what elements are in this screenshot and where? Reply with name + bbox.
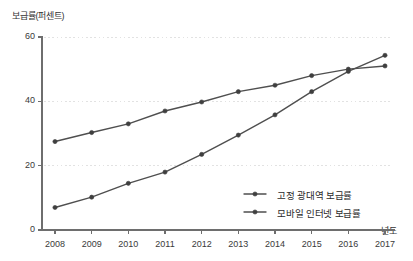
x-tick-label: 2009 (75, 239, 109, 249)
data-point (163, 170, 167, 174)
x-tick-label: 2012 (185, 239, 219, 249)
x-tick-label: 2014 (258, 239, 292, 249)
data-point (310, 90, 314, 94)
legend-item-label-1: 고정 광대역 보급률 (277, 188, 352, 202)
data-point (383, 53, 387, 57)
x-tick-label: 2017 (368, 239, 402, 249)
data-point (126, 181, 130, 185)
data-point (53, 205, 57, 209)
data-point (273, 83, 277, 87)
data-point (236, 90, 240, 94)
y-tick-label: 40 (15, 95, 35, 105)
data-point (383, 64, 387, 68)
data-point (310, 74, 314, 78)
plot-area (0, 0, 413, 261)
data-point (200, 100, 204, 104)
x-tick-label: 2015 (295, 239, 329, 249)
x-tick-label: 2016 (331, 239, 365, 249)
x-tick-label: 2011 (148, 239, 182, 249)
series-line-2 (55, 55, 385, 207)
data-point (346, 69, 350, 73)
data-point (273, 113, 277, 117)
x-tick-label: 2010 (111, 239, 145, 249)
data-point (53, 139, 57, 143)
data-point (163, 109, 167, 113)
x-tick-label: 2008 (38, 239, 72, 249)
line-chart: 보급률(퍼센트) 년도 0204060 20082009201020112012… (0, 0, 413, 261)
data-point (90, 195, 94, 199)
y-tick-label: 20 (15, 160, 35, 170)
series-line-1 (55, 66, 385, 142)
data-point (90, 130, 94, 134)
y-tick-label: 60 (15, 31, 35, 41)
x-tick-label: 2013 (221, 239, 255, 249)
data-point (236, 133, 240, 137)
data-point (126, 122, 130, 126)
legend-marker-dot-1 (253, 192, 257, 196)
legend-item-label-2: 모바일 인터넷 보급률 (277, 206, 361, 220)
y-tick-label: 0 (15, 224, 35, 234)
data-point (200, 152, 204, 156)
legend-marker-dot-2 (253, 210, 257, 214)
